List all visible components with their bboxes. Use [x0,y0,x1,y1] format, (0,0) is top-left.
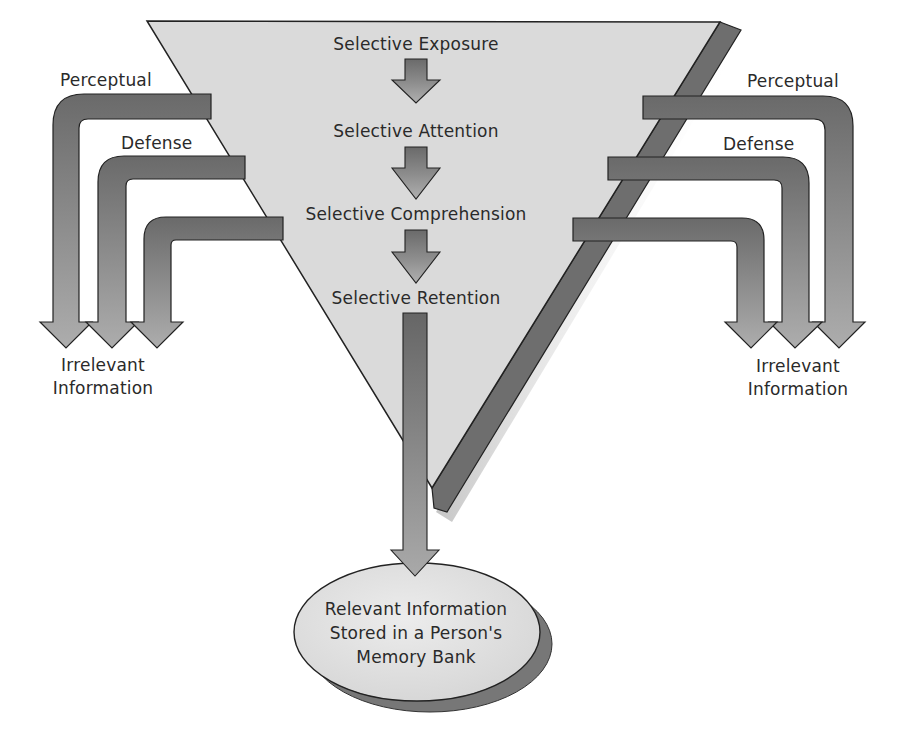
stage-label-comprehension: Selective Comprehension [305,203,526,225]
right-comprehension-arrow [573,218,777,348]
stage-label-retention: Selective Retention [332,287,501,309]
stage-label-attention: Selective Attention [333,120,498,142]
memory-bank-line1: Relevant Information [325,597,507,621]
right-irrelevant-information-label: Irrelevant Information [748,355,849,401]
right-output-line2: Information [748,378,849,401]
stage-label-exposure: Selective Exposure [333,33,498,55]
right-defense-label: Defense [723,133,794,155]
left-defense-label: Defense [121,132,192,154]
left-comprehension-arrow [131,217,283,348]
left-output-line2: Information [53,377,154,400]
left-perceptual-label: Perceptual [60,69,152,91]
right-output-line1: Irrelevant [748,355,849,378]
memory-bank-line3: Memory Bank [325,645,507,669]
selective-perception-diagram: Selective Exposure Selective Attention S… [0,0,907,744]
left-irrelevant-information-label: Irrelevant Information [53,354,154,400]
memory-bank-label: Relevant Information Stored in a Person'… [325,597,507,669]
right-perceptual-label: Perceptual [747,70,839,92]
memory-bank-line2: Stored in a Person's [325,621,507,645]
left-output-line1: Irrelevant [53,354,154,377]
